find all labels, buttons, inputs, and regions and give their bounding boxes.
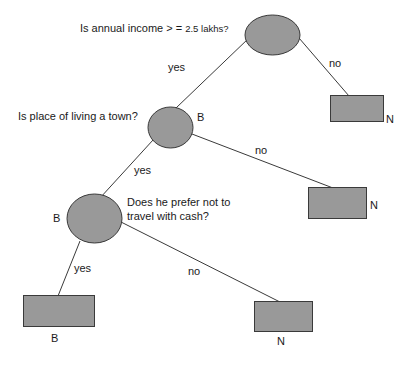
cash-question-line1: Does he prefer not to [127, 196, 230, 208]
decision-tree-diagram: Is annual income > = 2.5 lakhs? yes no N… [0, 0, 408, 366]
edge-label-cash-yes: yes [74, 262, 91, 274]
edge-label-town-no: no [255, 144, 267, 156]
leaf-town-no-box [309, 188, 367, 219]
edge-label-cash-no: no [188, 265, 200, 277]
root-question-tail: 2.5 lakhs? [185, 23, 228, 34]
edge-root-yes [176, 38, 249, 108]
leaf-cash-no-label: N [277, 335, 285, 347]
leaf-cash-yes-box [24, 296, 95, 327]
town-question: Is place of living a town? [18, 110, 138, 122]
leaf-root-no-label: N [386, 113, 394, 125]
leaf-root-no-box [331, 96, 384, 122]
leaf-cash-yes-label: B [51, 332, 58, 344]
leaf-town-no-label: N [370, 199, 378, 211]
town-node-label: B [197, 111, 204, 123]
root-question: Is annual income > = 2.5 lakhs? [80, 22, 229, 35]
leaf-cash-no-box [255, 302, 313, 332]
root-question-main: Is annual income > = [80, 22, 185, 34]
edge-label-root-yes: yes [168, 61, 185, 73]
edge-cash-no [121, 222, 280, 302]
cash-decision-node [67, 194, 122, 243]
diagram-graphics [0, 0, 408, 366]
edge-town-no [192, 134, 333, 188]
edge-label-root-no: no [329, 57, 341, 69]
root-decision-node [245, 15, 300, 55]
edge-label-town-yes: yes [134, 164, 151, 176]
cash-question-line2: travel with cash? [127, 210, 209, 222]
cash-node-label: B [53, 212, 60, 224]
edge-root-no [299, 38, 349, 96]
town-decision-node [148, 107, 193, 148]
